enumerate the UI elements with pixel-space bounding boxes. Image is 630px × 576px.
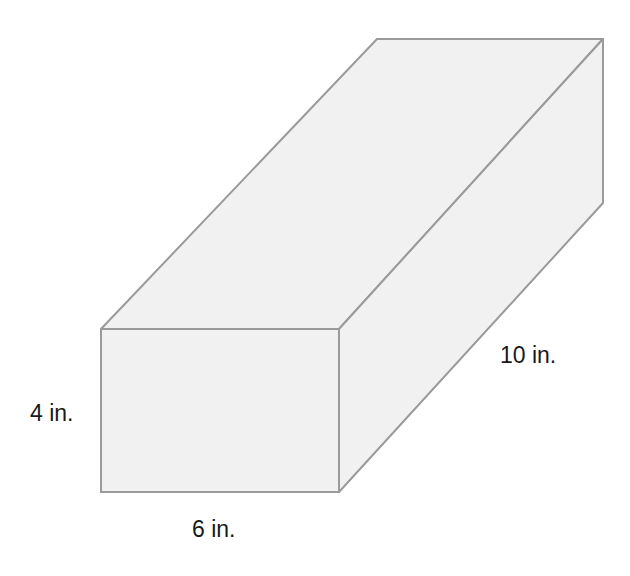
front-face [101, 329, 339, 492]
prism-drawing [0, 0, 630, 576]
prism-diagram: 4 in. 6 in. 10 in. [0, 0, 630, 576]
width-label: 6 in. [192, 518, 235, 541]
height-label: 4 in. [30, 402, 73, 425]
length-label: 10 in. [500, 344, 556, 367]
